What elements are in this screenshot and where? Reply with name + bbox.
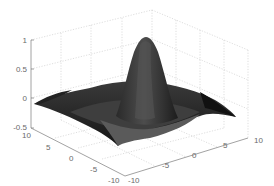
y-tick: 5 [46,143,51,152]
x-tick-labels: -10 -5 0 5 10 [128,136,263,185]
x-tick: -10 [128,176,140,185]
y-tick: -10 [108,176,120,185]
sinc-surface [34,37,236,146]
y-tick: 0 [69,154,74,163]
x-tick: 5 [223,141,228,150]
y-tick: -5 [90,165,98,174]
surface-plot: 1 0.5 0 -0.5 10 5 0 -5 -10 -10 -5 0 5 10 [0,0,274,186]
x-tick: 10 [254,136,263,145]
z-tick: 0.5 [16,65,28,74]
x-tick: -5 [162,161,170,170]
x-tick: 0 [192,151,197,160]
y-tick: 10 [22,131,31,140]
z-tick: 1 [23,36,28,45]
z-tick: 0 [23,94,28,103]
z-tick-labels: 1 0.5 0 -0.5 [13,36,27,132]
